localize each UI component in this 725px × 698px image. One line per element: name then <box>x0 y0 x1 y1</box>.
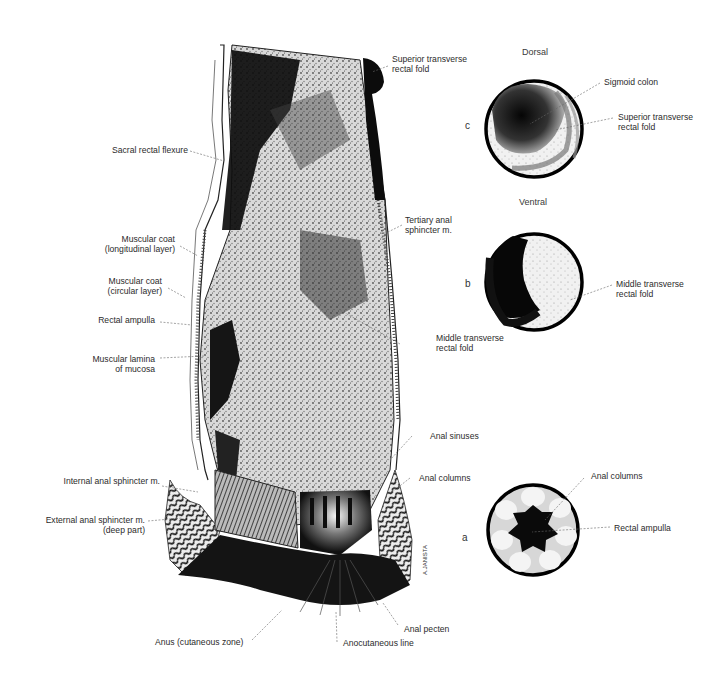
view-letter-b: b <box>465 278 471 289</box>
label-text: Muscular coat <box>108 276 162 286</box>
endoscopic-view-c <box>486 81 582 177</box>
label-anal-pecten: Anal pecten <box>404 624 449 634</box>
label-text: Muscular coat <box>105 234 175 244</box>
label-text: Sacral rectal flexure <box>112 145 188 155</box>
label-sigmoid-colon: Sigmoid colon <box>604 77 658 87</box>
heading-dorsal: Dorsal <box>522 47 548 57</box>
label-anocutaneous-line: Anocutaneous line <box>343 638 414 648</box>
label-text: Anus (cutaneous zone) <box>155 637 243 647</box>
label-text: rectal fold <box>392 64 467 74</box>
label-text: sphincter m. <box>405 225 452 235</box>
label-text: Middle transverse <box>616 279 684 289</box>
label-text: Tertiary anal <box>405 215 452 225</box>
label-anal-sinuses: Anal sinuses <box>430 431 479 441</box>
label-anus-cutaneous-zone: Anus (cutaneous zone) <box>155 637 243 647</box>
label-rectal-ampulla: Rectal ampulla <box>98 315 155 325</box>
label-muscular-coat-circular: Muscular coat (circular layer) <box>108 276 162 296</box>
signature-text: A.JANISTA <box>420 545 430 575</box>
label-text: (circular layer) <box>108 286 162 296</box>
rectum-main-drawing <box>200 45 394 525</box>
view-letter-c: c <box>465 120 470 131</box>
label-sacral-rectal-flexure: Sacral rectal flexure <box>112 145 188 155</box>
endoscopic-view-b <box>486 234 582 330</box>
label-anal-columns-a: Anal columns <box>591 471 643 481</box>
label-text: Anal columns <box>419 473 471 483</box>
label-text: rectal fold <box>436 343 504 353</box>
label-text: rectal fold <box>616 289 684 299</box>
label-text: Muscular lamina <box>92 354 155 364</box>
label-text: Rectal ampulla <box>614 523 671 533</box>
label-text: External anal sphincter m. <box>46 515 145 525</box>
label-text: Middle transverse <box>436 333 504 343</box>
label-text: Superior transverse <box>392 54 467 64</box>
label-text: (longitudinal layer) <box>105 244 175 254</box>
label-muscular-coat-longitudinal: Muscular coat (longitudinal layer) <box>105 234 175 254</box>
label-text: Superior transverse <box>618 112 693 122</box>
artist-signature: A.JANISTA <box>420 545 430 575</box>
label-external-anal-sphincter: External anal sphincter m. (deep part) <box>46 515 145 535</box>
label-text: (deep part) <box>46 525 145 535</box>
label-text: Rectal ampulla <box>98 315 155 325</box>
label-rectal-ampulla-a: Rectal ampulla <box>614 523 671 533</box>
label-text: Internal anal sphincter m. <box>64 476 161 486</box>
anatomical-figure: Sacral rectal flexure Muscular coat (lon… <box>0 0 725 698</box>
illustration <box>0 0 725 698</box>
label-middle-transverse-rectal-fold-b: Middle transverse rectal fold <box>616 279 684 299</box>
heading-ventral: Ventral <box>519 197 547 207</box>
label-superior-transverse-rectal-fold: Superior transverse rectal fold <box>392 54 467 74</box>
label-superior-transverse-rectal-fold-c: Superior transverse rectal fold <box>618 112 693 132</box>
label-text: rectal fold <box>618 122 693 132</box>
label-text: Anocutaneous line <box>343 638 414 648</box>
label-text: Anal columns <box>591 471 643 481</box>
label-muscular-lamina-mucosa: Muscular lamina of mucosa <box>92 354 155 374</box>
label-text: Sigmoid colon <box>604 77 658 87</box>
label-anal-columns: Anal columns <box>419 473 471 483</box>
label-tertiary-anal-sphincter: Tertiary anal sphincter m. <box>405 215 452 235</box>
view-letter-a: a <box>462 532 468 543</box>
label-text: Anal sinuses <box>430 431 479 441</box>
label-internal-anal-sphincter: Internal anal sphincter m. <box>64 476 161 486</box>
label-text: of mucosa <box>92 364 155 374</box>
label-text: Anal pecten <box>404 624 449 634</box>
label-middle-transverse-rectal-fold: Middle transverse rectal fold <box>436 333 504 353</box>
